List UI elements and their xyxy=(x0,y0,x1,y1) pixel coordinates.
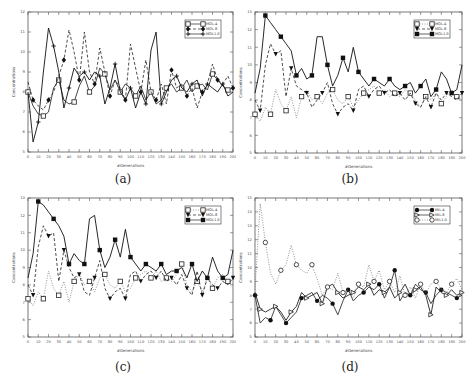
x-tick-label: 190 xyxy=(219,340,227,344)
x-tick-label: 40 xyxy=(67,155,72,159)
y-tick-label: 9 xyxy=(23,265,26,270)
x-tick-label: 110 xyxy=(365,156,373,160)
square-marker xyxy=(372,77,376,81)
square-marker xyxy=(346,94,350,98)
x-tick-label: 50 xyxy=(304,156,309,160)
square-marker xyxy=(159,262,163,266)
legend-entry: MOL.8 xyxy=(206,213,218,217)
circle-marker xyxy=(294,263,298,267)
y-tick-label: 13 xyxy=(20,195,25,200)
square-marker xyxy=(330,87,334,91)
x-tick-label: 20 xyxy=(46,340,51,344)
circle-marker xyxy=(341,290,345,294)
circle-marker xyxy=(434,279,438,283)
circle-marker xyxy=(310,263,314,267)
x-tick-label: 120 xyxy=(148,155,156,159)
legend-entry: MOL.8 xyxy=(435,27,447,31)
legend-entry: MIL.8 xyxy=(435,213,445,217)
chart-d-svg: 0102030405060708090100110120130140150160… xyxy=(236,190,473,362)
x-tick-label: 60 xyxy=(315,156,320,160)
y-tick-label: 13 xyxy=(247,223,252,228)
y-tick-label: 11 xyxy=(247,45,252,50)
triangle-marker xyxy=(460,290,464,294)
y-tick-label: 5 xyxy=(23,149,26,154)
legend-entry: MIL.4 xyxy=(435,208,445,212)
legend-entry: MOL1.0 xyxy=(206,32,220,36)
square-marker xyxy=(190,262,194,266)
x-tick-label: 180 xyxy=(209,155,217,159)
x-tick-label: 130 xyxy=(386,156,394,160)
y-tick-label: 7 xyxy=(250,307,253,312)
circle-marker xyxy=(356,282,360,286)
square-marker xyxy=(26,297,30,301)
y-tick-label: 12 xyxy=(20,213,25,218)
x-tick-label: 90 xyxy=(346,340,351,344)
circle-marker xyxy=(268,318,272,322)
x-tick-label: 160 xyxy=(189,155,197,159)
x-tick-label: 0 xyxy=(27,340,30,344)
x-tick-label: 80 xyxy=(108,155,113,159)
x-tick-label: 40 xyxy=(294,156,299,160)
square-marker xyxy=(149,276,153,280)
square-marker xyxy=(201,22,205,26)
square-marker xyxy=(430,22,434,26)
circle-marker xyxy=(415,218,419,222)
circle-marker xyxy=(415,208,419,212)
x-tick-label: 120 xyxy=(376,340,384,344)
y-tick-label: 10 xyxy=(20,49,25,54)
square-marker xyxy=(294,73,298,77)
circle-marker xyxy=(430,208,434,212)
x-axis-label: #Generations xyxy=(117,348,145,353)
y-tick-label: 6 xyxy=(250,133,253,138)
chart-c-svg: 0102030405060708090100110120130140150160… xyxy=(0,190,236,362)
square-marker xyxy=(144,262,148,266)
square-marker xyxy=(174,269,178,273)
circle-marker xyxy=(449,282,453,286)
square-marker xyxy=(201,208,205,212)
square-marker xyxy=(82,262,86,266)
square-marker xyxy=(299,94,303,98)
square-marker xyxy=(186,218,190,222)
circle-marker xyxy=(377,282,381,286)
x-tick-label: 190 xyxy=(448,156,456,160)
x-tick-label: 140 xyxy=(396,340,404,344)
y-tick-label: 15 xyxy=(247,195,252,200)
x-tick-label: 150 xyxy=(407,340,415,344)
caption-c: (c) xyxy=(103,360,143,374)
y-tick-label: 10 xyxy=(20,247,25,252)
x-tick-label: 150 xyxy=(407,156,415,160)
y-tick-label: 7 xyxy=(250,115,253,120)
x-tick-label: 150 xyxy=(178,340,186,344)
square-marker xyxy=(310,73,314,77)
legend-entry: MOL1.0 xyxy=(206,218,220,222)
x-axis-label: #Generations xyxy=(117,163,145,168)
x-tick-label: 100 xyxy=(127,155,135,159)
square-marker xyxy=(180,262,184,266)
y-tick-label: 8 xyxy=(250,97,253,102)
square-marker xyxy=(315,94,319,98)
legend-entry: MOL.4 xyxy=(206,22,218,26)
square-marker xyxy=(284,109,288,113)
x-tick-label: 110 xyxy=(137,155,145,159)
x-tick-label: 100 xyxy=(127,340,135,344)
circle-marker xyxy=(430,218,434,222)
square-marker xyxy=(403,84,407,88)
x-tick-label: 140 xyxy=(396,156,404,160)
x-tick-label: 160 xyxy=(417,156,425,160)
circle-marker xyxy=(418,282,422,286)
x-tick-label: 180 xyxy=(209,340,217,344)
y-axis-label: Concentrations xyxy=(238,67,243,97)
square-marker xyxy=(418,84,422,88)
y-axis-label: Concentrations xyxy=(238,252,243,282)
legend-entry: MOL1.0 xyxy=(435,32,449,36)
x-tick-label: 60 xyxy=(87,155,92,159)
circle-marker xyxy=(284,321,288,325)
x-tick-label: 40 xyxy=(67,340,72,344)
y-tick-label: 7 xyxy=(23,109,26,114)
x-tick-label: 100 xyxy=(355,156,363,160)
y-axis-label: Concentrations xyxy=(11,252,16,282)
circle-marker xyxy=(372,279,376,283)
x-tick-label: 50 xyxy=(304,340,309,344)
square-marker xyxy=(415,32,419,36)
square-marker xyxy=(415,22,419,26)
